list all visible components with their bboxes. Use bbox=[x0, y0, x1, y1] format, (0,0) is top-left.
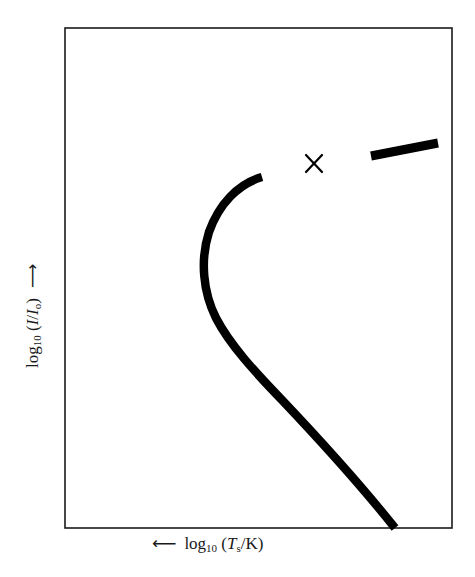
cross-marker-icon bbox=[306, 155, 322, 172]
up-arrow-icon: ⟶ bbox=[22, 264, 42, 288]
main-curve bbox=[204, 177, 395, 528]
plot-frame bbox=[65, 28, 452, 528]
diagram-canvas bbox=[0, 0, 475, 577]
upper-segment bbox=[371, 143, 438, 156]
y-axis-label: log10 (I/Io)⟶ bbox=[22, 264, 43, 368]
left-arrow-icon: ⟵ bbox=[152, 533, 176, 553]
x-axis-label: ⟵log10 (Ts/K) bbox=[152, 533, 263, 554]
